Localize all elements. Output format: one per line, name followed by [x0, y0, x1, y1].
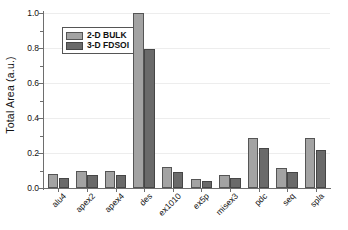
bar-seq-series1 — [276, 168, 287, 188]
gridline — [44, 83, 330, 84]
legend-entry-2d-bulk: 2-D BULK — [66, 31, 129, 40]
x-axis-tick — [173, 188, 174, 192]
x-axis-label-text: seq — [280, 191, 297, 208]
bar-des-series1 — [133, 13, 144, 188]
y-axis-tick-label: 0.6 — [13, 79, 39, 88]
chart-legend: 2-D BULK 3-D FDSOI — [62, 27, 134, 54]
x-axis-label-text: alu4 — [50, 191, 68, 209]
x-axis-label-text: pdc — [252, 191, 269, 208]
bar-spla-series2 — [316, 150, 327, 189]
x-axis-label-text: apex2 — [74, 191, 97, 214]
y-axis-tick — [38, 118, 43, 119]
y-axis-tick — [38, 13, 43, 14]
y-axis-tick — [38, 83, 43, 84]
y-axis-tick-label: 1.0 — [13, 9, 39, 18]
x-axis-label-text: misex3 — [214, 191, 240, 217]
x-axis-label-text: des — [137, 191, 154, 208]
bar-des-series2 — [144, 49, 155, 188]
x-axis-label-text: spla — [308, 191, 326, 209]
y-axis-tick-labels: 0.00.20.40.60.81.0 — [9, 13, 39, 188]
y-axis-tick-label: 0.4 — [13, 114, 39, 123]
y-axis-tick-label: 0.8 — [13, 44, 39, 53]
y-axis-minor-tick — [40, 101, 43, 102]
y-axis-minor-tick — [40, 31, 43, 32]
y-axis-tick — [38, 48, 43, 49]
gridline — [44, 118, 330, 119]
bar-alu4-series1 — [48, 174, 59, 188]
chart-figure: Total Area (a.u.) 0.00.20.40.60.81.0 2-D… — [0, 0, 348, 230]
y-axis-tick-label: 0.2 — [13, 149, 39, 158]
x-axis-tick — [259, 188, 260, 192]
y-axis-minor-tick — [40, 171, 43, 172]
y-axis-minor-tick — [40, 66, 43, 67]
x-axis-tick — [116, 188, 117, 192]
x-axis-tick — [316, 188, 317, 192]
x-axis-label-text: ex1010 — [156, 191, 183, 218]
y-axis-tick — [38, 188, 43, 189]
bar-pdc-series2 — [259, 148, 270, 188]
gridline — [44, 13, 330, 14]
legend-swatch-2d-bulk — [66, 32, 83, 40]
legend-swatch-3d-fdsoi — [66, 42, 83, 50]
y-axis-tick — [38, 153, 43, 154]
gridline — [44, 153, 330, 154]
bar-spla-series1 — [305, 138, 316, 188]
x-axis-label-text: apex4 — [102, 191, 125, 214]
x-axis-label-text: ex5p — [191, 191, 211, 211]
legend-entry-3d-fdsoi: 3-D FDSOI — [66, 41, 129, 50]
y-axis-minor-tick — [40, 136, 43, 137]
legend-label-2d-bulk: 2-D BULK — [87, 31, 127, 40]
legend-label-3d-fdsoi: 3-D FDSOI — [87, 41, 129, 50]
bar-ex1010-series1 — [162, 167, 173, 188]
y-axis-tick-label: 0.0 — [13, 184, 39, 193]
